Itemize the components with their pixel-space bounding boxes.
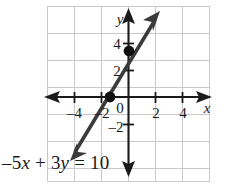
equation-constant: 10 (90, 152, 109, 173)
point-y-intercept (124, 46, 135, 57)
equation-coef-y: 3 (51, 152, 61, 173)
y-axis-label: y (115, 11, 124, 27)
x-tick-label-2: 2 (152, 105, 160, 121)
y-tick-label-2: 2 (113, 63, 121, 79)
graph-figure: –4 –2 2 4 4 2 –2 0 x y –5x + 3y = 10 (0, 0, 231, 186)
x-tick-label-neg2: –2 (94, 105, 110, 121)
equation-operator: + (35, 152, 46, 173)
x-tick-label-neg4: –4 (66, 105, 83, 121)
equation-label: –5x + 3y = 10 (2, 152, 109, 174)
equation-coef-x: –5 (2, 152, 21, 173)
origin-label: 0 (116, 100, 124, 116)
equation-equals: = (74, 152, 85, 173)
x-tick-label-4: 4 (179, 105, 187, 121)
point-x-intercept (105, 92, 116, 103)
equation-var-y: y (61, 152, 70, 173)
y-tick-label-neg2: –2 (108, 119, 124, 135)
y-tick-label-4: 4 (113, 36, 121, 52)
equation-var-x: x (21, 152, 30, 173)
x-axis-label: x (203, 100, 211, 116)
